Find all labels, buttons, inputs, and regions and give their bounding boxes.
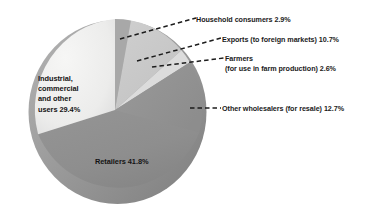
slice-label-industrial-line3: and other	[38, 94, 80, 104]
slice-label-industrial-line4: users 29.4%	[38, 105, 80, 115]
slice-label-farmers: Farmers (for use in farm production) 2.6…	[225, 54, 336, 73]
slice-label-industrial: Industrial, commercial and other users 2…	[38, 74, 80, 115]
pie-chart-figure: Household consumers 2.9% Exports (to for…	[0, 0, 383, 221]
slice-label-retailers: Retailers 41.8%	[95, 157, 148, 167]
slice-label-industrial-line1: Industrial,	[38, 74, 80, 84]
slice-label-exports: Exports (to foreign markets) 10.7%	[222, 35, 339, 45]
slice-label-industrial-line2: commercial	[38, 84, 80, 94]
slice-label-household: Household consumers 2.9%	[196, 15, 291, 25]
slice-label-farmers-line1: Farmers	[225, 54, 253, 63]
slice-label-farmers-line2: (for use in farm production) 2.6%	[225, 64, 336, 74]
slice-label-wholesalers: Other wholesalers (for resale) 12.7%	[222, 104, 344, 114]
